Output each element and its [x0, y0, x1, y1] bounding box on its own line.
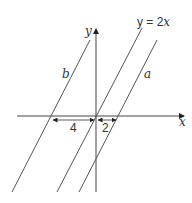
parallel-lines-diagram: y x b a y = 2x 4 2 [0, 0, 192, 203]
measure-2-label: 2 [102, 121, 109, 135]
line-y-equals-2x [57, 28, 142, 192]
y-axis-label: y [84, 24, 92, 38]
x-axis-label: x [179, 115, 186, 129]
measure-4-label: 4 [70, 121, 77, 135]
line-a-label: a [144, 67, 151, 81]
line-y-equals-2x-label: y = 2x [137, 15, 170, 29]
line-b-label: b [62, 67, 70, 81]
